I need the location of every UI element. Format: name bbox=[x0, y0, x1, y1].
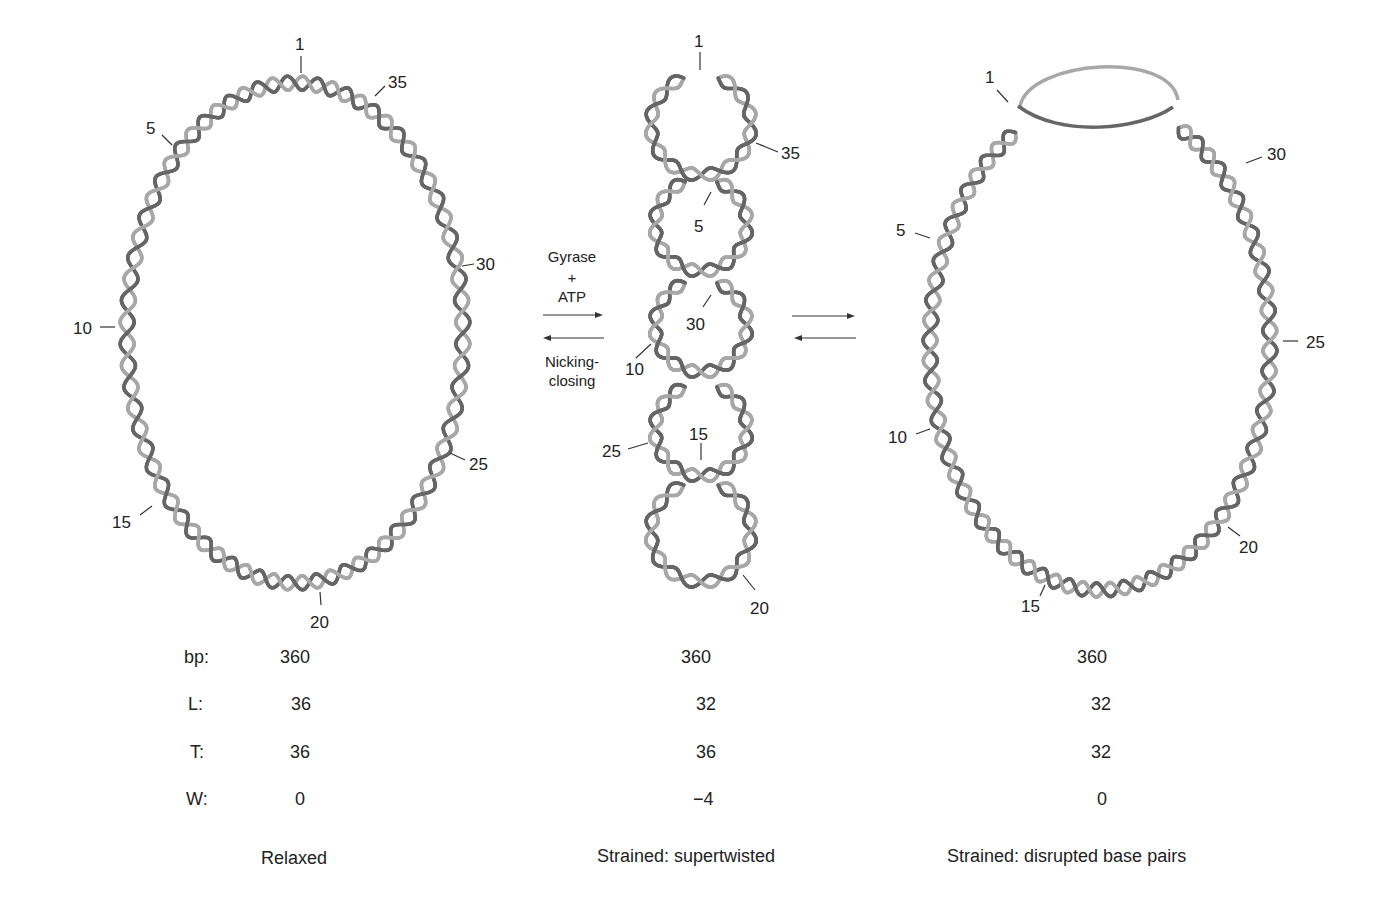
disrupted-turn-labels: 1 30 5 25 10 20 15 bbox=[888, 68, 1325, 616]
turn-label: 25 bbox=[1306, 333, 1325, 352]
turn-label: 20 bbox=[310, 613, 329, 632]
turn-label: 15 bbox=[689, 425, 708, 444]
caption-disrupted: Strained: disrupted base pairs bbox=[947, 846, 1186, 867]
supertwisted-L: 32 bbox=[696, 694, 716, 715]
row-label-L: L: bbox=[188, 694, 203, 715]
turn-label: 5 bbox=[694, 217, 703, 236]
turn-label: 10 bbox=[73, 319, 92, 338]
turn-label: 20 bbox=[1239, 538, 1258, 557]
turn-label: 30 bbox=[476, 255, 495, 274]
gyrase-reaction-arrows: Gyrase + ATP Nicking- closing bbox=[543, 248, 604, 389]
turn-label: 15 bbox=[1021, 597, 1040, 616]
atp-label: ATP bbox=[558, 288, 586, 305]
row-label-T: T: bbox=[190, 742, 204, 763]
turn-label: 35 bbox=[388, 73, 407, 92]
relaxed-circular-dna bbox=[120, 76, 470, 589]
row-label-bp: bp: bbox=[184, 647, 209, 668]
unpaired-strand-light bbox=[1020, 67, 1178, 106]
disrupted-L: 32 bbox=[1091, 694, 1111, 715]
gyrase-label: Gyrase bbox=[548, 248, 596, 265]
relaxed-W: 0 bbox=[295, 789, 305, 810]
row-label-W: W: bbox=[186, 789, 208, 810]
disrupted-bp: 360 bbox=[1077, 647, 1107, 668]
relaxed-bp: 360 bbox=[280, 647, 310, 668]
plus-label: + bbox=[568, 269, 577, 286]
caption-relaxed: Relaxed bbox=[261, 848, 327, 869]
disrupted-base-pair-dna bbox=[923, 67, 1277, 597]
supertwisted-W: −4 bbox=[693, 789, 714, 810]
turn-label: 5 bbox=[146, 119, 155, 138]
turn-label: 10 bbox=[888, 428, 907, 447]
relaxed-turn-labels: 1 35 5 30 10 25 15 20 bbox=[73, 35, 495, 632]
relaxed-L: 36 bbox=[291, 694, 311, 715]
turn-label: 30 bbox=[686, 315, 705, 334]
supertwisted-turn-labels: 1 35 5 30 10 25 15 20 bbox=[602, 32, 800, 618]
disrupted-W: 0 bbox=[1097, 789, 1107, 810]
turn-label: 30 bbox=[1267, 145, 1286, 164]
turn-label: 1 bbox=[985, 68, 994, 87]
turn-label: 5 bbox=[896, 221, 905, 240]
turn-label: 25 bbox=[602, 442, 621, 461]
turn-label: 35 bbox=[781, 144, 800, 163]
disrupted-T: 32 bbox=[1091, 742, 1111, 763]
relaxed-T: 36 bbox=[290, 742, 310, 763]
turn-label: 10 bbox=[625, 360, 644, 379]
closing-label: closing bbox=[549, 372, 596, 389]
supertwisted-T: 36 bbox=[696, 742, 716, 763]
nicking-label: Nicking- bbox=[545, 353, 599, 370]
dna-supercoiling-diagram: 1 35 5 30 10 25 15 20 Gyrase + ATP Nicki… bbox=[0, 0, 1392, 922]
turn-label: 1 bbox=[694, 32, 703, 51]
equilibrium-arrows bbox=[792, 313, 856, 341]
caption-supertwisted: Strained: supertwisted bbox=[597, 846, 775, 867]
turn-label: 20 bbox=[750, 599, 769, 618]
unpaired-strand-dark bbox=[1018, 106, 1173, 127]
turn-label: 25 bbox=[469, 455, 488, 474]
supertwisted-bp: 360 bbox=[681, 647, 711, 668]
turn-label: 15 bbox=[112, 513, 131, 532]
turn-label: 1 bbox=[295, 35, 304, 54]
